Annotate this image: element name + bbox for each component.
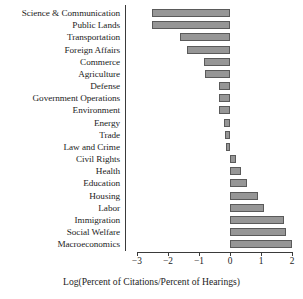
bar[interactable] (230, 240, 292, 248)
x-axis-tick-label: −3 (132, 256, 142, 266)
x-axis-title: Log(Percent of Citations/Percent of Hear… (0, 276, 303, 287)
bar[interactable] (180, 33, 230, 41)
x-axis-line (137, 252, 292, 253)
x-axis-tick-label: 2 (290, 256, 295, 266)
bar-row (126, 214, 303, 226)
bar-row (126, 44, 303, 56)
bar[interactable] (230, 228, 286, 236)
category-label: Civil Rights (0, 153, 123, 165)
x-axis-tick-label: 1 (259, 256, 264, 266)
bar-row (126, 31, 303, 43)
category-label: Foreign Affairs (0, 44, 123, 56)
category-axis-labels: Science & CommunicationPublic LandsTrans… (0, 7, 123, 250)
bar[interactable] (204, 58, 230, 66)
x-axis: −3−2−1012 (0, 252, 303, 264)
category-label: Macroeconomics (0, 238, 123, 250)
bar[interactable] (219, 82, 230, 90)
category-label: Immigration (0, 214, 123, 226)
x-axis-tick-label: 0 (228, 256, 233, 266)
bar-row (126, 141, 303, 153)
bar[interactable] (225, 131, 230, 139)
bar-row (126, 226, 303, 238)
bar[interactable] (152, 21, 230, 29)
category-label: Trade (0, 129, 123, 141)
category-label: Housing (0, 190, 123, 202)
bar[interactable] (230, 179, 247, 187)
category-label: Energy (0, 117, 123, 129)
plot-area (126, 7, 303, 251)
category-label: Transportation (0, 31, 123, 43)
bar-row (126, 153, 303, 165)
x-axis-tick-label: −1 (194, 256, 204, 266)
bar[interactable] (230, 192, 258, 200)
bar-row (126, 7, 303, 19)
bar-row (126, 68, 303, 80)
category-label: Commerce (0, 56, 123, 68)
category-label: Government Operations (0, 92, 123, 104)
bar[interactable] (224, 119, 230, 127)
bar-row (126, 104, 303, 116)
x-axis-tick-label: −2 (163, 256, 173, 266)
bar[interactable] (187, 46, 230, 54)
category-label: Law and Crime (0, 141, 123, 153)
category-label: Defense (0, 80, 123, 92)
horizontal-bar-chart: Science & CommunicationPublic LandsTrans… (0, 0, 303, 299)
category-label: Public Lands (0, 19, 123, 31)
bar-row (126, 117, 303, 129)
bar-row (126, 129, 303, 141)
bar[interactable] (230, 204, 264, 212)
bar-row (126, 190, 303, 202)
bar-row (126, 165, 303, 177)
bar-row (126, 80, 303, 92)
category-label: Health (0, 165, 123, 177)
bar[interactable] (230, 155, 236, 163)
bar[interactable] (226, 143, 230, 151)
category-label: Education (0, 177, 123, 189)
category-label: Social Welfare (0, 226, 123, 238)
bar[interactable] (205, 70, 230, 78)
bar-row (126, 177, 303, 189)
category-label: Agriculture (0, 68, 123, 80)
bar-row (126, 238, 303, 250)
category-label: Science & Communication (0, 7, 123, 19)
bar[interactable] (152, 9, 230, 17)
bar-row (126, 92, 303, 104)
category-label: Environment (0, 104, 123, 116)
bar-row (126, 202, 303, 214)
bar-row (126, 56, 303, 68)
bar[interactable] (219, 106, 230, 114)
bar[interactable] (230, 167, 241, 175)
bar[interactable] (219, 94, 230, 102)
bar[interactable] (230, 216, 284, 224)
category-label: Labor (0, 202, 123, 214)
bar-row (126, 19, 303, 31)
